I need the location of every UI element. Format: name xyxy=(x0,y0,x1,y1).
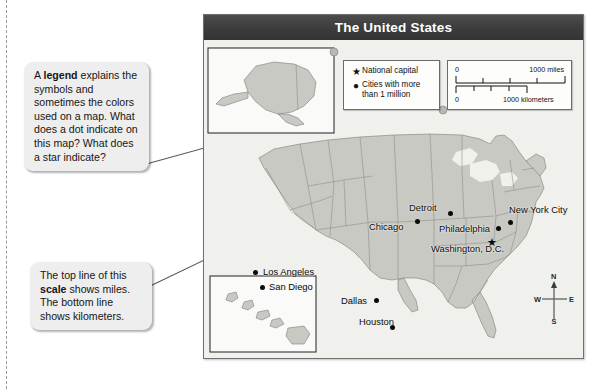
callout-scale-keyword: scale xyxy=(40,283,67,295)
dot-symbol: ● xyxy=(350,80,362,92)
callout-scale-lead: The top line of this xyxy=(40,269,127,281)
city-dot-los-angeles xyxy=(253,270,258,275)
callout-legend: A legend explains the symbols and someti… xyxy=(24,62,149,171)
scale-km-max: 1000 kilometers xyxy=(503,95,554,104)
capital-star-washington-dc: ★ xyxy=(487,237,497,248)
legend-row-cities: ● Cities with more than 1 million xyxy=(350,80,435,100)
compass-needle-icon xyxy=(534,272,574,326)
map-canvas[interactable]: .land{fill:#c9c9c4;stroke:#7d7d78;stroke… xyxy=(204,40,583,358)
legend-row-capital: ★ National capital xyxy=(350,66,435,78)
city-label-detroit: Detroit xyxy=(409,202,437,213)
scale-miles-zero: 0 xyxy=(455,65,459,74)
scale-km-ruler xyxy=(455,85,566,94)
city-dot-chicago xyxy=(415,219,420,224)
figure-title: The United States xyxy=(204,15,583,40)
city-label-new-york-city: New York City xyxy=(509,204,567,215)
city-label-chicago: Chicago xyxy=(369,221,403,232)
star-symbol: ★ xyxy=(350,66,362,78)
callout-scale: The top line of this scale shows miles. … xyxy=(30,262,152,330)
city-label-houston: Houston xyxy=(359,316,394,327)
city-dot-san-diego xyxy=(260,285,265,290)
scale-miles-ruler xyxy=(455,75,566,84)
city-dot-new-york-city xyxy=(508,220,513,225)
legend-label-capital: National capital xyxy=(362,66,418,76)
compass-rose: N S W E xyxy=(534,272,574,326)
city-dot-detroit xyxy=(448,211,453,216)
city-dot-dallas xyxy=(374,298,379,303)
map-scale-bar: 0 1000 miles xyxy=(447,60,572,110)
map-legend: ★ National capital ● Cities with more th… xyxy=(343,60,440,110)
scale-miles: 0 1000 miles xyxy=(455,65,564,85)
callout-legend-rest: explains the symbols and sometimes the c… xyxy=(34,69,138,163)
city-label-philadelphia: Philadelphia xyxy=(439,223,490,234)
city-dot-philadelphia xyxy=(496,226,501,231)
scale-miles-max: 1000 miles xyxy=(529,65,564,74)
callout-legend-keyword: legend xyxy=(43,69,77,81)
map-figure: The United States .land{fill:#c9c9c4;str… xyxy=(203,14,584,359)
page-left-rule xyxy=(6,0,7,389)
scale-km-zero: 0 xyxy=(455,95,459,104)
legend-label-cities: Cities with more than 1 million xyxy=(362,80,435,100)
city-label-dallas: Dallas xyxy=(341,295,367,306)
city-label-los-angeles: Los Angeles xyxy=(263,266,314,277)
city-label-san-diego: San Diego xyxy=(269,281,313,292)
city-dot-houston xyxy=(390,325,395,330)
scale-kilometers: 0 1000 kilometers xyxy=(455,85,564,103)
